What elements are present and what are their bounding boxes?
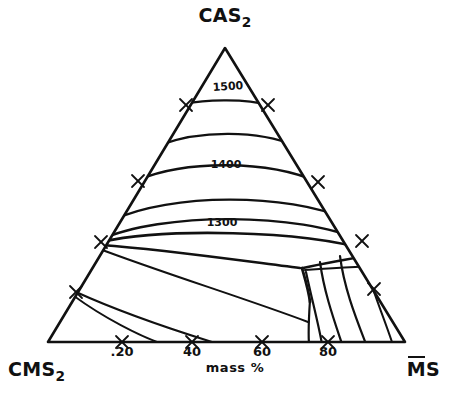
axis-tick-label-20: .20 [102, 344, 142, 359]
phase-boundary-right-2 [305, 266, 386, 270]
tick-left-3 [95, 236, 107, 248]
tick-left-2 [132, 175, 144, 187]
vertex-label-cas2-text: CAS [198, 4, 241, 26]
vertex-label-cms2-text: CMS [8, 358, 55, 380]
axis-tick-label-80: 80 [308, 344, 348, 359]
vertex-label-cas2: CAS2 [0, 4, 450, 30]
phase-boundary-left [101, 245, 300, 268]
axis-tick-label-60: 60 [242, 344, 282, 359]
fan-curve-3 [320, 262, 342, 344]
axis-title: mass % [165, 360, 305, 375]
vertex-label-cms2-sub: 2 [55, 368, 65, 384]
vertex-label-cms2: CMS2 [8, 358, 65, 384]
vertex-label-ms: MS [407, 358, 440, 380]
isotherm-label-1400: 1400 [196, 158, 256, 171]
tick-right-1 [262, 99, 274, 111]
fan-curve-4 [340, 256, 366, 344]
vertex-label-ms-bar: M [407, 358, 426, 380]
isotherm-label-1300: 1300 [192, 216, 252, 229]
isotherm-curve-2 [160, 134, 296, 146]
vertex-label-cas2-sub: 2 [242, 14, 252, 30]
fan-curve-1 [309, 300, 310, 344]
isotherm-1500 [186, 100, 268, 105]
axis-tick-label-40: 40 [172, 344, 212, 359]
figure-canvas: CAS2 CMS2 MS .20 40 60 80 mass % 1500 14… [0, 0, 450, 397]
field-line-left-1 [97, 248, 308, 322]
tick-right-2 [312, 176, 324, 188]
vertex-label-ms-text: S [426, 358, 440, 380]
ternary-diagram-svg [0, 0, 450, 397]
tick-right-3 [356, 235, 368, 247]
field-line-left-2 [76, 292, 212, 342]
